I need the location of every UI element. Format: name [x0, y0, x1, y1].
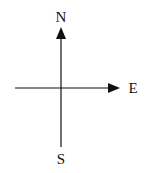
east-label: E [128, 80, 137, 96]
east-arrow-icon [108, 83, 120, 93]
compass-diagram: N E S [0, 0, 145, 173]
north-label: N [56, 9, 67, 25]
north-arrow-icon [56, 27, 66, 39]
south-label: S [57, 151, 65, 167]
